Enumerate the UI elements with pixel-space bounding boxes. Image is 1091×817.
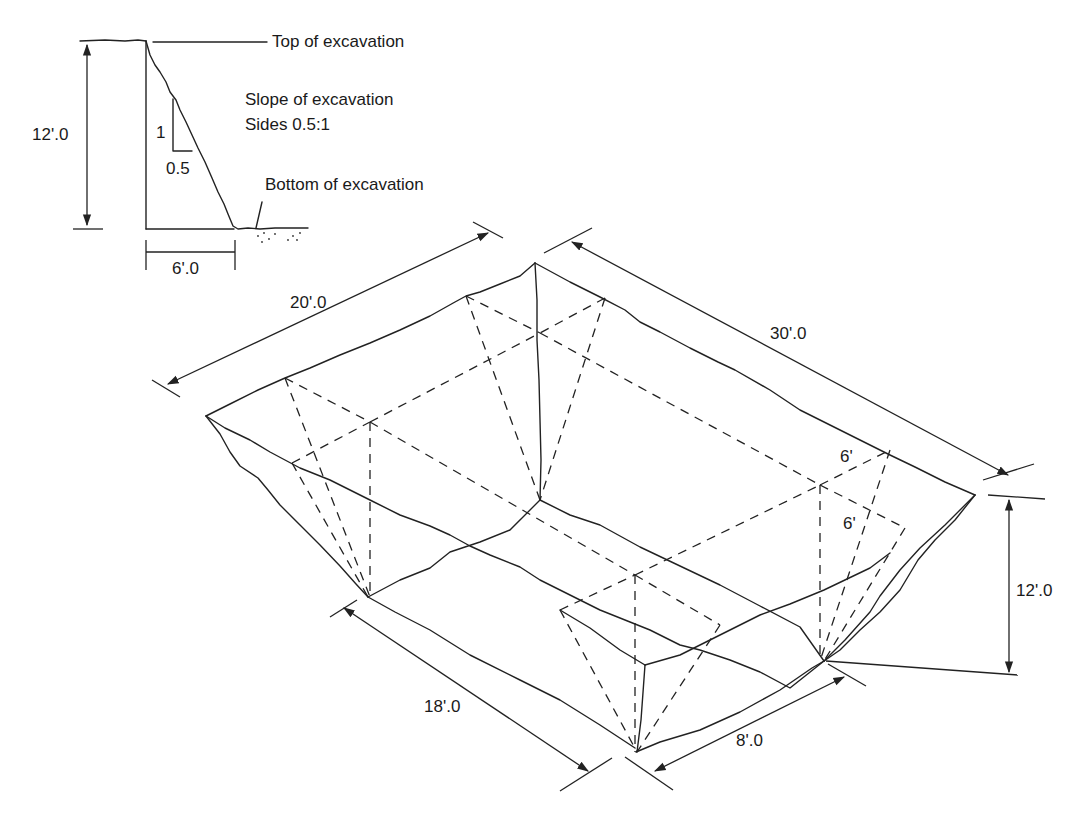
dim-30-arrow [572,242,1008,475]
top-rim-back-left [206,263,535,416]
bottom-front-left [560,610,645,665]
slope-face-line [146,41,308,229]
back-corner-edge [535,263,541,500]
dim-12-ext-top [988,495,1045,499]
dim-8-arrow [655,677,844,771]
slope-offset-label-upper: 6' [840,447,853,466]
top-rim-back-right [535,263,975,495]
cross-section: Top of excavation 1 0.5 Slope of excavat… [32,32,424,278]
slope-offset-label-lower: 6' [843,514,856,533]
bottom-edge-right [645,553,890,665]
front-slope-to-bottom-corner [636,661,824,752]
top-width-label: 20'.0 [290,293,326,312]
section-offset-label: 6'.0 [172,259,199,278]
bottom-of-excavation-label: Bottom of excavation [265,175,424,194]
top-rim-front-left [206,416,824,688]
run-label: 0.5 [166,159,190,178]
slope-ratio-label: Sides 0.5:1 [245,115,330,134]
dim-12-ext-bottom [826,661,1018,675]
dim-20-ext-left [152,380,180,397]
slope-triangle [173,99,192,151]
bottom-leader-line [256,202,262,228]
rise-label: 1 [156,123,165,142]
excavation-diagram: Top of excavation 1 0.5 Slope of excavat… [0,0,1091,817]
slope-title-label: Slope of excavation [245,90,393,109]
section-depth-label: 12'.0 [32,125,68,144]
bottom-edge-left-front [368,500,540,597]
bottom-width-label: 8'.0 [736,731,763,750]
soil-hatch [257,232,301,243]
dim-20-ext-right [473,222,503,238]
top-length-label: 30'.0 [770,324,806,343]
dim-18-ext-right [560,758,612,791]
bottom-edge-back [368,597,635,748]
bottom-length-label: 18'.0 [424,697,460,716]
top-of-excavation-label: Top of excavation [272,32,404,51]
pit-depth-label: 12'.0 [1016,581,1052,600]
dim-8-ext-left [625,757,673,790]
dim-18-arrow [344,608,588,771]
ground-top-line [80,40,146,41]
bottom-edge-right-front [540,500,824,661]
bottom-corner-edge [637,665,645,752]
dim-20-arrow [168,233,488,384]
isometric-pit: 20'.0 30'.0 6' 6' 12'.0 18'.0 8'.0 [152,222,1052,791]
left-slope-edge [206,416,368,597]
